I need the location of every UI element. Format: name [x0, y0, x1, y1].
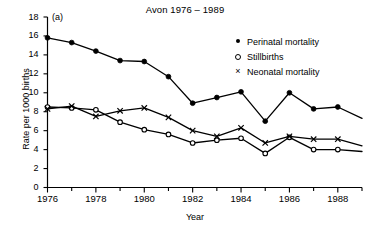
y-tick-label: 14 — [15, 50, 39, 59]
y-tick-label: 8 — [15, 107, 39, 116]
y-tick-label: 10 — [15, 88, 39, 97]
data-point-open-circle — [118, 120, 123, 125]
y-tick-label: 12 — [15, 69, 39, 78]
data-point-filled-circle — [311, 106, 316, 111]
legend-item: ×Neonatal mortality — [232, 62, 320, 77]
y-tick-label: 6 — [15, 126, 39, 135]
data-point-filled-circle — [214, 95, 219, 100]
x-tick-label: 1980 — [122, 194, 166, 204]
series-stillbirths — [45, 105, 362, 156]
series-line — [48, 107, 363, 153]
x-tick-label: 1976 — [26, 194, 70, 204]
data-point-filled-circle — [166, 74, 171, 79]
legend-item-label: Perinatal mortality — [244, 37, 319, 47]
y-tick-label: 16 — [15, 31, 39, 40]
data-point-open-circle — [239, 136, 244, 141]
open-circle-marker — [232, 54, 244, 60]
y-tick-label: 2 — [15, 164, 39, 173]
legend-item-label: Stillbirths — [244, 52, 284, 62]
data-point-open-circle — [311, 147, 316, 152]
data-point-filled-circle — [335, 105, 340, 110]
legend-item-label: Neonatal mortality — [244, 67, 320, 77]
data-point-filled-circle — [118, 58, 123, 63]
data-point-open-circle — [190, 141, 195, 146]
data-point-filled-circle — [190, 101, 195, 106]
chart-figure: Avon 1976 – 1989 (a) Rate per 1000 birth… — [0, 0, 370, 229]
y-tick-label: 4 — [15, 145, 39, 154]
chart-legend: Perinatal mortalityStillbirths×Neonatal … — [232, 32, 320, 77]
legend-item: Perinatal mortality — [232, 32, 320, 47]
y-tick-label: 0 — [15, 183, 39, 192]
x-axis-ticks — [48, 188, 363, 193]
x-tick-label: 1986 — [267, 194, 311, 204]
legend-item: Stillbirths — [232, 47, 320, 62]
data-point-open-circle — [166, 132, 171, 137]
data-point-filled-circle — [263, 119, 268, 124]
data-point-filled-circle — [69, 40, 74, 45]
data-point-filled-circle — [93, 49, 98, 54]
x-tick-label: 1984 — [219, 194, 263, 204]
y-tick-label: 18 — [15, 13, 39, 22]
cross-marker: × — [232, 67, 244, 76]
data-point-filled-circle — [45, 35, 50, 40]
data-point-filled-circle — [287, 90, 292, 95]
data-point-open-circle — [142, 127, 147, 132]
data-point-filled-circle — [142, 59, 147, 64]
data-point-filled-circle — [239, 89, 244, 94]
data-point-open-circle — [94, 108, 99, 113]
data-point-cross — [166, 115, 171, 120]
filled-circle-marker — [232, 39, 244, 44]
x-tick-label: 1982 — [171, 194, 215, 204]
data-point-open-circle — [336, 147, 341, 152]
x-tick-label: 1988 — [316, 194, 360, 204]
x-tick-label: 1978 — [74, 194, 118, 204]
data-point-open-circle — [263, 151, 268, 156]
